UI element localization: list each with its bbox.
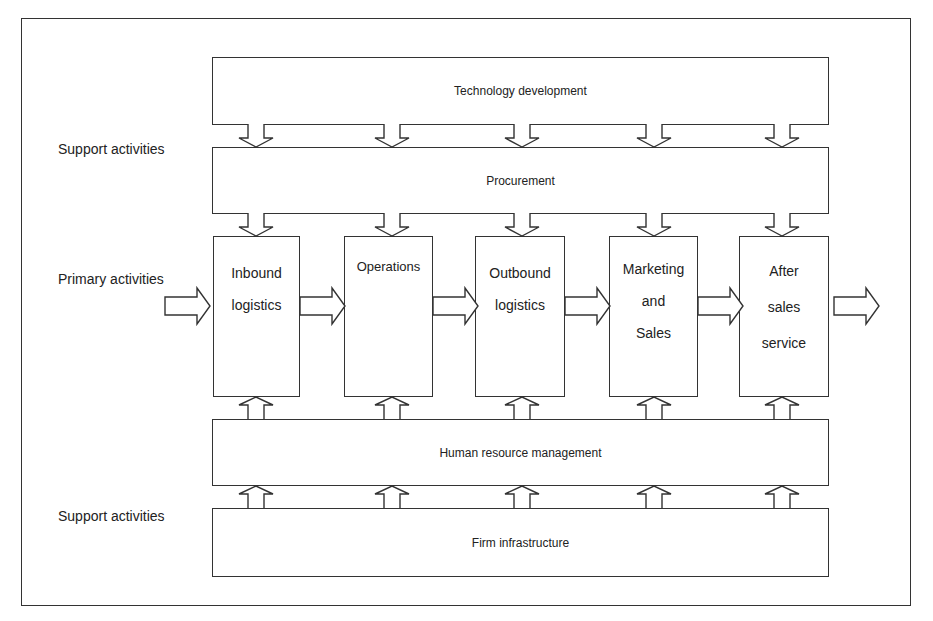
up-arrow-icons <box>239 397 799 508</box>
arrows-layer <box>0 0 933 621</box>
right-arrow-icons <box>165 288 879 324</box>
down-arrow-icons <box>239 124 799 236</box>
